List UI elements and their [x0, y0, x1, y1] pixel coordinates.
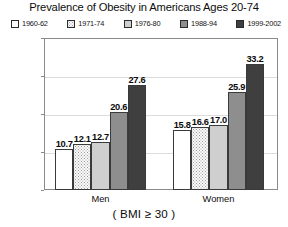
bar-value-men-1960-62: 10.7 — [56, 139, 73, 149]
legend-label-1971-74: 1971-74 — [78, 19, 104, 28]
bar-value-women-1999-2002: 33.2 — [246, 54, 263, 64]
bars-layer: 10.712.112.720.627.615.816.617.025.933.2 — [44, 38, 278, 190]
x-group-label-men: Men — [91, 194, 109, 204]
bar-men-1976-80: 12.7 — [91, 142, 109, 190]
legend-swatch-icon-1988-94 — [180, 20, 188, 28]
bar-women-1976-80: 17.0 — [209, 125, 227, 190]
legend-swatch-icon-1999-2002 — [236, 20, 244, 28]
bar-men-1999-2002: 27.6 — [128, 85, 146, 190]
y-tick-mark-0 — [41, 190, 44, 191]
chart-legend: 1960-62 1971-74 1976-80 1988-94 1999-200… — [11, 19, 281, 28]
bar-value-women-1988-94: 25.9 — [228, 82, 245, 92]
obesity-prevalence-bar-chart: Prevalence of Obesity in Americans Ages … — [0, 0, 288, 227]
bar-women-1971-74: 16.6 — [191, 127, 209, 190]
bar-women-1999-2002: 33.2 — [246, 64, 264, 190]
bar-value-women-1971-74: 16.6 — [192, 117, 209, 127]
legend-swatch-icon-1976-80 — [124, 20, 132, 28]
legend-label-1960-62: 1960-62 — [22, 19, 48, 28]
bar-value-women-1960-62: 15.8 — [174, 120, 191, 130]
x-group-label-women: Women — [203, 194, 235, 204]
bar-value-men-1999-2002: 27.6 — [128, 75, 145, 85]
legend-label-1988-94: 1988-94 — [191, 19, 217, 28]
bar-value-men-1971-74: 12.1 — [74, 134, 91, 144]
legend-item-1971-74: 1971-74 — [67, 19, 104, 28]
bar-women-1960-62: 15.8 — [173, 130, 191, 190]
chart-title: Prevalence of Obesity in Americans Ages … — [0, 1, 288, 13]
legend-item-1999-2002: 1999-2002 — [236, 19, 281, 28]
legend-item-1960-62: 1960-62 — [11, 19, 48, 28]
bar-women-1988-94: 25.9 — [228, 92, 246, 190]
bar-group-men: 10.712.112.720.627.6 — [55, 38, 150, 190]
legend-label-1999-2002: 1999-2002 — [247, 19, 281, 28]
bar-group-women: 15.816.617.025.933.2 — [173, 38, 268, 190]
bar-value-men-1976-80: 12.7 — [92, 132, 109, 142]
legend-item-1976-80: 1976-80 — [124, 19, 161, 28]
bar-men-1971-74: 12.1 — [73, 144, 91, 190]
legend-label-1976-80: 1976-80 — [135, 19, 161, 28]
legend-item-1988-94: 1988-94 — [180, 19, 217, 28]
bar-value-men-1988-94: 20.6 — [110, 102, 127, 112]
legend-swatch-icon-1960-62 — [11, 20, 19, 28]
legend-swatch-icon-1971-74 — [67, 20, 75, 28]
bar-value-women-1976-80: 17.0 — [210, 115, 227, 125]
x-axis-caption: ( BMI ≥ 30 ) — [0, 207, 288, 220]
bar-men-1960-62: 10.7 — [55, 149, 73, 190]
bar-men-1988-94: 20.6 — [110, 112, 128, 190]
